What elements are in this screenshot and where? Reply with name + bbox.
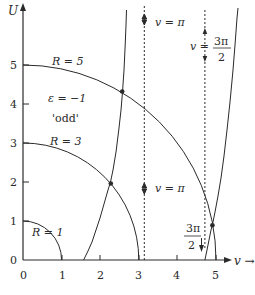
label-r3: R = 3	[49, 135, 82, 148]
y-tick-3: 3	[10, 137, 17, 150]
intersection-r3	[109, 181, 114, 186]
y-axis-arrow-icon	[20, 3, 26, 11]
label-r1: R = 1	[31, 226, 64, 239]
parity-label: 'odd'	[52, 112, 79, 125]
y-tick-labels: 0 1 2 3 4 5	[10, 59, 17, 267]
y-tick-2: 2	[10, 176, 17, 189]
circle-r3	[23, 143, 139, 260]
pi-top-arrows-icon	[142, 14, 147, 25]
intersection-r5-branch2	[210, 223, 215, 228]
y-tick-0: 0	[10, 254, 17, 267]
x-axis-arrow-icon	[224, 257, 232, 263]
bottom-3pi2-arrow-icon	[199, 245, 204, 252]
intersection-points	[109, 89, 215, 227]
x-tick-2: 2	[97, 269, 104, 282]
intersection-r5-branch1	[120, 89, 125, 94]
pi-mid-arrows-icon	[142, 183, 147, 194]
x-tick-5: 5	[212, 269, 219, 282]
epsilon-label: ε = −1	[48, 92, 86, 105]
y-tick-1: 1	[10, 215, 17, 228]
asymptote-3pi2-denominator: 2	[218, 51, 225, 64]
asymptote-3pi2-v-label: v =	[190, 40, 209, 53]
x-tick-labels: 0 1 2 3 4 5	[20, 269, 219, 282]
y-tick-5: 5	[10, 59, 17, 72]
x-tick-0: 0	[20, 269, 27, 282]
x-axis-label: v →	[234, 254, 255, 268]
curve-branch-1	[84, 10, 127, 260]
x-tick-1: 1	[59, 269, 66, 282]
label-r5: R = 5	[51, 55, 84, 68]
asymptote-pi-label-top: v = π	[155, 16, 185, 29]
x-tick-4: 4	[173, 269, 180, 282]
bottom-3pi2-denominator: 2	[188, 239, 195, 252]
asymptote-3pi2-numerator: 3π	[214, 35, 228, 48]
bottom-3pi2-numerator: 3π	[186, 222, 200, 235]
y-axis-label: U	[8, 4, 19, 18]
asymptote-pi-label-mid: v = π	[155, 182, 185, 195]
y-tick-4: 4	[10, 98, 17, 111]
x-tick-3: 3	[135, 269, 142, 282]
odd-states-diagram: 0 1 2 3 4 5 0 1 2 3 4 5 U v → R = 1 R = …	[0, 0, 255, 295]
